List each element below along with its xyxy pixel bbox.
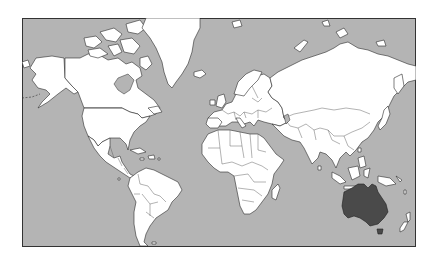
region-vanuatu — [404, 190, 406, 194]
region-galapagos — [118, 178, 120, 180]
region-taiwan — [358, 148, 361, 152]
region-falklands — [152, 242, 156, 244]
region-puerto-rico — [158, 158, 160, 160]
region-ireland — [210, 100, 215, 105]
region-tasmania-highlighted — [377, 229, 383, 234]
world-map-svg — [22, 18, 416, 247]
region-hispaniola — [148, 155, 155, 159]
world-map — [22, 18, 416, 247]
region-jamaica — [140, 158, 144, 160]
region-sri-lanka — [318, 166, 321, 170]
